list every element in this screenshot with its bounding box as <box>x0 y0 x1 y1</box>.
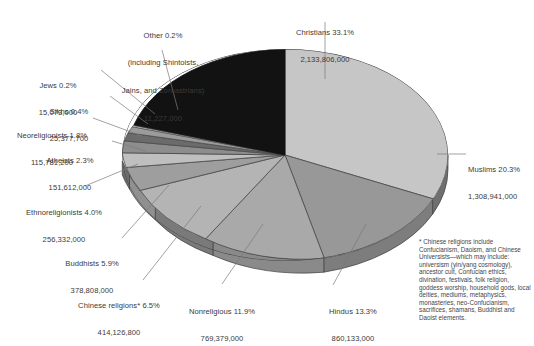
label-nonreligious: Nonreligious 11.9% 769,379,000 <box>171 288 273 346</box>
label-other-value: 11,227,000 <box>96 114 230 123</box>
label-hindus-value: 860,133,000 <box>306 334 400 343</box>
label-other-line3: Jains, and Zoroastrians) <box>96 86 230 95</box>
label-ethnoreligionists-value: 256,332,000 <box>2 235 126 244</box>
label-nonreligious-title: Nonreligious 11.9% <box>171 307 273 316</box>
label-other-line2: (including Shintoists, <box>96 58 230 67</box>
label-jews: Jews 0.2% 15,073,000 <box>12 62 104 136</box>
label-hindus-title: Hindus 13.3% <box>306 307 400 316</box>
label-jews-value: 15,073,000 <box>12 108 104 117</box>
label-buddhists-value: 378,808,000 <box>41 286 143 295</box>
label-muslims-value: 1,308,941,000 <box>468 192 534 201</box>
label-christians-value: 2,133,806,000 <box>264 55 386 64</box>
label-jews-title: Jews 0.2% <box>12 81 104 90</box>
label-muslims-title: Muslims 20.3% <box>468 165 534 174</box>
label-muslims: Muslims 20.3% 1,308,941,000 <box>468 146 534 220</box>
label-other-line1: Other 0.2% <box>96 31 230 40</box>
label-hindus: Hindus 13.3% 860,133,000 <box>306 288 400 346</box>
label-nonreligious-value: 769,379,000 <box>171 334 273 343</box>
label-chinese-value: 414,126,800 <box>57 328 181 337</box>
footnote-chinese-religions: * Chinese religions include Confucianism… <box>419 238 533 322</box>
label-other: Other 0.2% (including Shintoists, Jains,… <box>96 12 230 142</box>
label-christians: Christians 33.1% 2,133,806,000 <box>264 9 386 83</box>
label-christians-title: Christians 33.1% <box>264 28 386 37</box>
